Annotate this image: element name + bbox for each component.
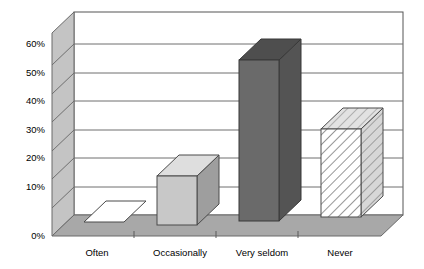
y-tick-label-20: 20% [26,152,46,163]
x-cat-label-never: Never [327,247,352,258]
y-axis-labels: 60% 50% 40% 30% 20% 10% 0% [26,38,46,241]
y-tick-label-50: 50% [26,67,46,78]
bar-never-front [321,129,361,217]
bar-occasionally-front [157,176,197,225]
chart-canvas: 60% 50% 40% 30% 20% 10% 0% Often Occasio… [0,0,424,269]
x-cat-label-often: Often [85,247,108,258]
bar-very-seldom-front [239,60,279,221]
plot-left-wall [52,12,74,236]
y-tick-label-60: 60% [26,38,46,49]
x-cat-label-very-seldom: Very seldom [236,247,288,258]
bar-never [321,108,383,217]
y-tick-label-40: 40% [26,95,46,106]
x-cat-label-occasionally: Occasionally [153,247,207,258]
y-tick-label-0: 0% [31,230,45,241]
bar-chart: 60% 50% 40% 30% 20% 10% 0% Often Occasio… [0,0,424,269]
y-tick-label-10: 10% [26,181,46,192]
bar-very-seldom [239,39,301,221]
bar-very-seldom-side [279,39,301,221]
x-axis-labels: Often Occasionally Very seldom Never [85,247,352,258]
y-tick-label-30: 30% [26,124,46,135]
